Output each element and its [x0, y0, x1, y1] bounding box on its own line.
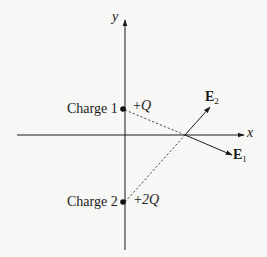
charge-2-dot [120, 199, 126, 205]
x-axis-label: x [247, 126, 253, 140]
e2-vector-label: E2 [205, 90, 219, 106]
e1-subscript: 1 [242, 154, 247, 164]
e2-symbol: E [205, 89, 214, 104]
diagram-graphics [0, 0, 267, 257]
charge-2-value: +2Q [134, 193, 159, 207]
e1-symbol: E [233, 147, 242, 162]
e2-subscript: 2 [214, 96, 219, 106]
e1-vector-arrow [185, 135, 232, 155]
charge-2-magnitude: 2Q [142, 192, 159, 207]
electric-field-diagram: y x Charge 1 +Q Charge 2 +2Q E2 E1 [0, 0, 267, 257]
e1-vector-label: E1 [233, 148, 247, 164]
charge-2-sign: + [134, 192, 142, 207]
y-axis-label: y [112, 10, 118, 24]
charge-1-magnitude: Q [141, 98, 151, 113]
charge-1-value: +Q [133, 99, 151, 113]
charge-1-sign: + [133, 98, 141, 113]
charge-2-label: Charge 2 [67, 195, 118, 209]
charge-1-dot [120, 106, 126, 112]
charge-1-label: Charge 1 [67, 102, 118, 116]
e2-vector-arrow [185, 107, 210, 135]
dashed-line-charge-1 [125, 110, 185, 135]
